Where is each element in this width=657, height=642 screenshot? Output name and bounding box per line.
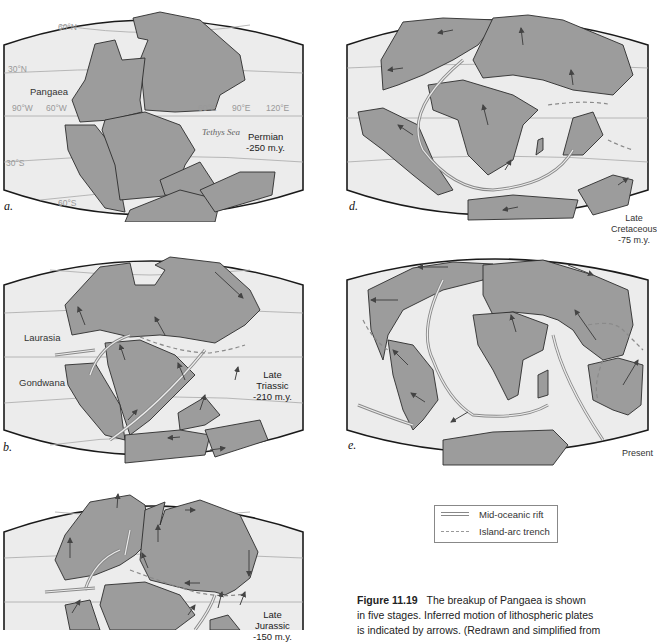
stage-label: Permian — [248, 131, 283, 142]
age-label: -250 m.y. — [246, 142, 285, 153]
lon-60e-label: 60°E — [198, 103, 217, 113]
lon-90e-label: 90°E — [232, 103, 251, 113]
lon-90w-label: 90°W — [12, 103, 33, 113]
lon-120e-label: 120°E — [266, 103, 289, 113]
lat-60n-label: 60°N — [58, 22, 77, 32]
laurasia-label: Laurasia — [24, 332, 60, 343]
caption-line-2: in five stages. Inferred motion of litho… — [357, 609, 593, 621]
legend-item-rift: Mid-oceanic rift — [435, 507, 557, 523]
dashed-line-icon — [441, 531, 469, 532]
stage-label: Present — [622, 448, 653, 459]
map-present — [343, 250, 654, 468]
stage-line-2: Jurassic — [253, 620, 292, 631]
lat-60s-label: 60°S — [58, 198, 77, 208]
map-late-cretaceous — [343, 0, 654, 245]
stage-label: Late Cretaceous -75 m.y. — [611, 213, 657, 246]
panel-d-late-cretaceous: d. Late Cretaceous -75 m.y. — [343, 0, 654, 245]
caption-line-3: is indicated by arrows. (Redrawn and sim… — [357, 624, 600, 636]
panel-b-late-triassic: Laurasia Gondwana Late Triassic -210 m.y… — [0, 245, 310, 467]
stage-line-1: Late — [253, 369, 292, 380]
panel-letter-e: e. — [348, 438, 356, 453]
stage-line-1: Late — [611, 213, 657, 224]
age-label: -75 m.y. — [611, 235, 657, 246]
panel-a-permian: 60°N 30°N 30°S 60°S 90°W 60°W 60°E 90°E … — [0, 0, 310, 222]
legend-item-trench: Island-arc trench — [435, 524, 557, 540]
stage-label: Late Triassic -210 m.y. — [253, 369, 292, 402]
stage-label: Late Jurassic -150 m.y. — [253, 609, 292, 642]
panel-letter-a: a. — [4, 199, 13, 214]
map-late-triassic — [0, 245, 310, 467]
age-label: -210 m.y. — [253, 391, 292, 402]
legend-label: Mid-oceanic rift — [479, 509, 543, 520]
stage-line-2: Triassic — [253, 380, 292, 391]
caption-line-1: The breakup of Pangaea is shown — [426, 594, 585, 606]
panel-letter-b: b. — [3, 440, 12, 455]
figure-number: Figure 11.19 — [357, 594, 418, 606]
figure-caption: Figure 11.19 The breakup of Pangaea is s… — [357, 593, 654, 638]
lat-30n-label: 30°N — [8, 64, 27, 74]
panel-letter-d: d. — [349, 199, 358, 214]
lat-30s-label: 30°S — [6, 158, 25, 168]
tethys-sea-label: Tethys Sea — [202, 127, 240, 137]
stage-line-2: Cretaceous — [611, 224, 657, 235]
map-legend: Mid-oceanic rift Island-arc trench — [434, 505, 558, 543]
pangaea-label: Pangaea — [30, 86, 68, 97]
gondwana-label: Gondwana — [19, 377, 65, 388]
map-late-jurassic — [0, 480, 310, 630]
panel-c-late-jurassic: Late Jurassic -150 m.y. — [0, 480, 310, 630]
age-label: -150 m.y. — [253, 631, 292, 642]
lon-60w-label: 60°W — [46, 103, 67, 113]
double-line-icon — [441, 512, 469, 516]
panel-e-present: e. Present — [343, 250, 654, 468]
legend-label: Island-arc trench — [479, 526, 550, 537]
stage-line-1: Late — [253, 609, 292, 620]
